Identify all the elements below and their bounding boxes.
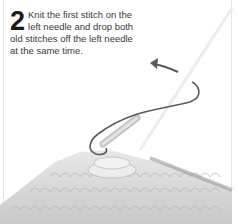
working-yarn xyxy=(98,82,199,134)
direction-arrow-icon xyxy=(154,64,178,72)
knitting-instruction-card: 2 Knit the first stitch on the left need… xyxy=(0,0,238,224)
knitting-illustration xyxy=(0,0,238,224)
right-needle xyxy=(140,8,232,150)
